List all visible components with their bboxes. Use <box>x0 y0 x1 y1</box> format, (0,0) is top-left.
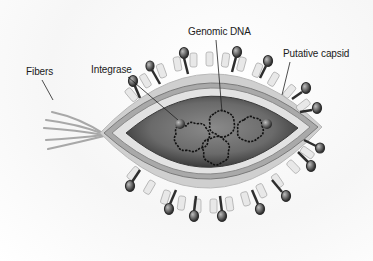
diagram-canvas: Fibers Integrase Genomic DNA Putative ca… <box>0 0 373 261</box>
virus-illustration <box>0 0 373 261</box>
fibers <box>44 112 104 149</box>
label-integrase: Integrase <box>91 64 132 75</box>
label-fibers: Fibers <box>26 66 53 77</box>
integrase-left <box>175 119 185 129</box>
integrase-right <box>262 119 272 129</box>
label-genomic-dna: Genomic DNA <box>188 26 251 37</box>
label-putative-capsid: Putative capsid <box>283 48 349 59</box>
